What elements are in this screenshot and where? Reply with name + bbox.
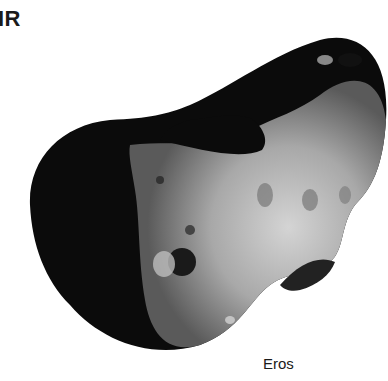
image-caption: Eros xyxy=(263,355,294,372)
asteroid-eros-image xyxy=(0,0,388,381)
